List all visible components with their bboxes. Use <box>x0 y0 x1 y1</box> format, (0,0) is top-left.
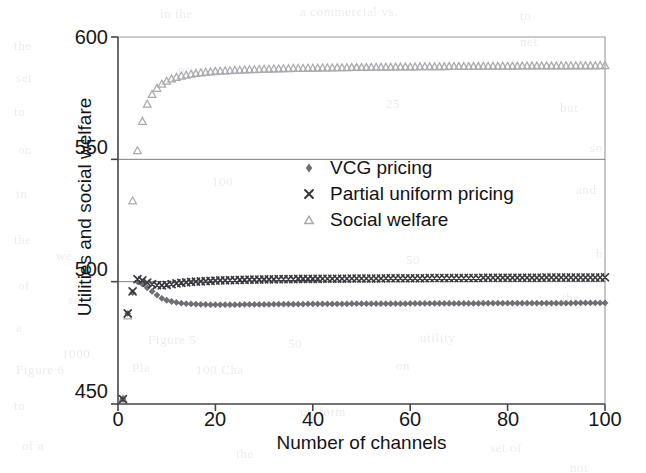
cross-marker-icon <box>296 187 322 201</box>
legend-item-partial-uniform-pricing: Partial uniform pricing <box>296 181 514 207</box>
chart-legend: VCG pricing Partial uniform pricing Soci… <box>296 155 514 233</box>
series-vcg-pricing <box>119 278 608 402</box>
y-tick-label-550: 550 <box>36 137 108 157</box>
legend-item-social-welfare: Social welfare <box>296 207 514 233</box>
x-tick-label-80: 80 <box>484 409 532 429</box>
legend-label-vcg-pricing: VCG pricing <box>322 157 432 179</box>
y-axis-title: Utilities and social welfare <box>74 42 96 372</box>
plot-canvas <box>0 0 646 473</box>
series-partial-uniform-pricing <box>119 274 608 403</box>
x-tick-label-40: 40 <box>289 409 337 429</box>
legend-item-vcg-pricing: VCG pricing <box>296 155 514 181</box>
legend-label-social-welfare: Social welfare <box>322 209 448 231</box>
diamond-marker-icon <box>296 161 322 175</box>
legend-label-partial-uniform-pricing: Partial uniform pricing <box>322 183 514 205</box>
x-tick-label-0: 0 <box>94 409 142 429</box>
y-tick-label-450: 450 <box>36 381 108 401</box>
triangle-marker-icon <box>296 213 322 227</box>
x-axis-title: Number of channels <box>118 432 605 454</box>
x-tick-label-60: 60 <box>386 409 434 429</box>
y-tick-label-500: 500 <box>36 259 108 279</box>
y-tick-label-600: 600 <box>36 27 108 47</box>
x-tick-label-20: 20 <box>191 409 239 429</box>
chart-figure: 450 500 550 600 0 20 40 60 80 100 Utilit… <box>0 0 646 473</box>
x-tick-label-100: 100 <box>581 409 629 429</box>
